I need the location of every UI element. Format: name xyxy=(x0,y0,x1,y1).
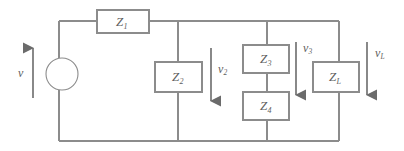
circuit-diagram: Z1 Z2 Z3 Z4 ZL v v2 v3 vL xyxy=(0,0,404,151)
impedance-box-z3 xyxy=(243,45,289,73)
impedance-box-z2 xyxy=(155,62,202,92)
voltage-source-symbol xyxy=(46,58,78,90)
circuit-svg xyxy=(0,0,404,151)
impedance-box-z4 xyxy=(243,92,289,120)
impedance-box-z1 xyxy=(97,10,149,33)
impedance-box-zl xyxy=(313,62,359,92)
impedance-boxes xyxy=(97,10,359,120)
